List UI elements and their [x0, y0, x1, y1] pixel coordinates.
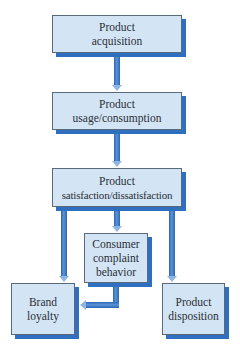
- arrowhead-icon: [112, 85, 122, 91]
- arrow-usage-to-satisfaction: [114, 130, 120, 162]
- node-label-line: satisfaction/dissatisfaction: [62, 188, 173, 202]
- node-brand-loyalty: Brand loyalty: [11, 283, 75, 335]
- node-product-usage: Product usage/consumption: [52, 92, 182, 130]
- node-product-disposition: Product disposition: [162, 283, 225, 335]
- node-label-line: Product: [99, 97, 135, 111]
- node-label-line: acquisition: [92, 34, 142, 48]
- arrow-complaint-to-loyalty-horizontal: [86, 302, 119, 308]
- arrowhead-icon: [80, 300, 86, 310]
- node-label-line: Product: [176, 295, 212, 309]
- node-consumer-complaint-behavior: Consumer complaint behavior: [84, 233, 148, 283]
- node-label-line: loyalty: [27, 309, 59, 323]
- arrow-satisfaction-to-complaint: [114, 207, 120, 227]
- arrowhead-icon: [112, 161, 122, 167]
- consumer-behavior-flowchart: Product acquisition Product usage/consum…: [0, 0, 240, 357]
- node-product-acquisition: Product acquisition: [52, 15, 182, 53]
- node-label-line: usage/consumption: [73, 111, 162, 125]
- arrowhead-icon: [112, 226, 122, 232]
- node-label-line: Consumer: [92, 237, 139, 251]
- node-product-satisfaction: Product satisfaction/dissatisfaction: [52, 168, 182, 207]
- node-label-line: Product: [99, 174, 135, 188]
- node-label-line: Brand: [29, 295, 57, 309]
- node-label-line: disposition: [168, 309, 218, 323]
- node-label-line: behavior: [96, 265, 136, 279]
- arrow-acquisition-to-usage: [114, 53, 120, 86]
- arrow-satisfaction-to-disposition: [169, 207, 175, 277]
- arrow-satisfaction-to-loyalty: [61, 207, 67, 277]
- node-label-line: Product: [99, 20, 135, 34]
- arrowhead-icon: [167, 276, 177, 282]
- node-label-line: complaint: [93, 251, 139, 265]
- arrowhead-icon: [59, 276, 69, 282]
